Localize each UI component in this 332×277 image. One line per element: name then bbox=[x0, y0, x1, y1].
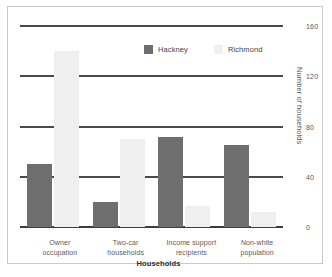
legend-label-richmond: Richmond bbox=[228, 45, 263, 54]
y-tick-label-160: 160 bbox=[306, 23, 318, 30]
x-category-line: Income support bbox=[159, 238, 225, 248]
bar-richmond-1[interactable] bbox=[120, 139, 145, 227]
y-tick-label-0: 0 bbox=[306, 224, 310, 231]
x-category-line: occupation bbox=[27, 248, 93, 258]
bar-richmond-2[interactable] bbox=[185, 206, 210, 227]
x-category-line: households bbox=[93, 248, 159, 258]
x-category-line: Two-car bbox=[93, 238, 159, 248]
legend-label-hackney: Hackney bbox=[158, 45, 188, 54]
y-tick-label-40: 40 bbox=[306, 173, 314, 180]
x-category-line: recipients bbox=[159, 248, 225, 258]
legend-item-richmond[interactable]: Richmond bbox=[214, 45, 263, 54]
x-axis-title: Households bbox=[27, 259, 290, 268]
y-tick-label-80: 80 bbox=[306, 123, 314, 130]
y-tick-label-120: 120 bbox=[306, 73, 318, 80]
bar-hackney-2[interactable] bbox=[158, 137, 183, 227]
bar-hackney-3[interactable] bbox=[224, 145, 249, 227]
chart-legend: Hackney Richmond bbox=[144, 45, 262, 54]
x-category-line: population bbox=[224, 248, 290, 258]
chart-frame: 04080120160 Number of households Hackney… bbox=[7, 6, 323, 264]
legend-swatch-hackney bbox=[144, 45, 153, 54]
bar-richmond-0[interactable] bbox=[54, 51, 79, 227]
legend-item-hackney[interactable]: Hackney bbox=[144, 45, 188, 54]
bar-richmond-3[interactable] bbox=[251, 212, 276, 227]
bar-hackney-1[interactable] bbox=[93, 202, 118, 227]
legend-swatch-richmond bbox=[214, 45, 223, 54]
y-axis-title: Number of households bbox=[295, 67, 304, 187]
x-category-line: Non-white bbox=[224, 238, 290, 248]
bar-hackney-0[interactable] bbox=[27, 164, 52, 227]
x-category-line: Owner bbox=[27, 238, 93, 248]
